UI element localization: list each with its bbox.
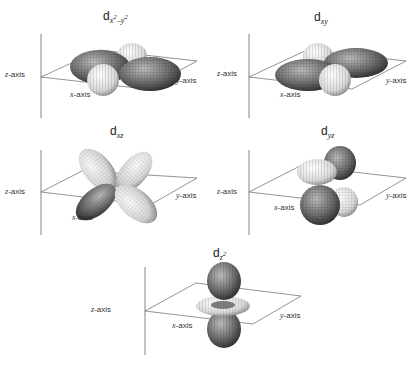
x-axis-label: x-axis: [70, 90, 90, 99]
x-axis-label: x-axis: [280, 90, 300, 99]
orbital-panel-dxz: dxz z-axis x-axis y-axis: [0, 120, 210, 250]
y-axis-label: y-axis: [176, 191, 196, 200]
orbital-dz2-graphic: [100, 245, 320, 367]
z-axis-label: z-axis: [91, 305, 111, 314]
z-axis-label: z-axis: [217, 69, 237, 78]
orbital-dxz-graphic: [0, 120, 210, 250]
z-axis-label: z-axis: [5, 70, 25, 79]
orbital-panel-dx2-y2: dx2–y2 z-axis x-axis y-axis: [0, 0, 210, 125]
y-axis-label: y-axis: [176, 76, 196, 85]
orbital-dx2-y2-graphic: [0, 0, 210, 125]
y-axis-label: y-axis: [386, 76, 406, 85]
orbital-panel-dyz: dyz z-axis x-axis y-axis: [210, 120, 418, 250]
x-axis-label: x-axis: [274, 203, 294, 212]
x-axis-label: x-axis: [172, 321, 192, 330]
y-axis-label: y-axis: [386, 191, 406, 200]
orbital-panel-dz2: dz2 z-axis x-axis y-axis: [100, 245, 320, 367]
z-axis-label: z-axis: [5, 187, 25, 196]
y-axis-label: y-axis: [280, 311, 300, 320]
orbital-panel-dxy: dxy z-axis x-axis y-axis: [210, 0, 418, 125]
z-axis-label: z-axis: [217, 187, 237, 196]
orbital-dxy-graphic: [210, 0, 418, 125]
x-axis-label: x-axis: [72, 213, 92, 222]
orbital-dyz-graphic: [210, 120, 418, 250]
